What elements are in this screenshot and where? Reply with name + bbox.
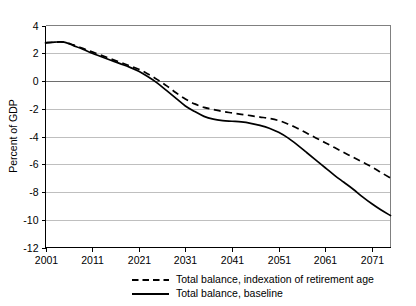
x-tick-label: 2011 — [81, 254, 104, 266]
y-tick-label: 0 — [33, 75, 39, 87]
y-tick-label: -8 — [29, 186, 38, 198]
x-tick-label: 2031 — [174, 254, 198, 266]
y-tick-label: -10 — [23, 214, 38, 226]
series-group — [46, 42, 391, 216]
x-tick-label: 2071 — [361, 254, 385, 266]
x-tick-label: 2021 — [128, 254, 152, 266]
series-line-1 — [46, 42, 391, 178]
y-tick-label: -2 — [29, 103, 38, 115]
chart-container: 420-2-4-6-8-10-12 2001201120212031204120… — [0, 0, 416, 306]
y-tick-label: -4 — [29, 131, 38, 143]
series-line-2 — [46, 42, 391, 216]
x-axis-ticks: 20012011202120312041205120612071 — [35, 248, 385, 266]
x-tick-label: 2051 — [268, 254, 292, 266]
y-tick-label: -12 — [23, 242, 38, 254]
x-tick-label: 2001 — [35, 254, 59, 266]
y-axis-ticks: 420-2-4-6-8-10-12 — [23, 20, 45, 254]
y-tick-label: 2 — [33, 47, 39, 59]
line-chart: 420-2-4-6-8-10-12 2001201120212031204120… — [0, 0, 416, 306]
y-tick-label: 4 — [33, 20, 39, 32]
plot-frame — [46, 26, 391, 248]
gridlines-group — [46, 54, 391, 221]
y-tick-label: -6 — [29, 158, 38, 170]
x-tick-label: 2061 — [314, 254, 338, 266]
chart-legend: Total balance, indexation of retirement … — [132, 273, 374, 299]
legend-label: Total balance, indexation of retirement … — [176, 273, 374, 285]
y-axis-title: Percent of GDP — [7, 99, 19, 173]
legend-label: Total balance, baseline — [176, 287, 283, 299]
x-tick-label: 2041 — [221, 254, 245, 266]
